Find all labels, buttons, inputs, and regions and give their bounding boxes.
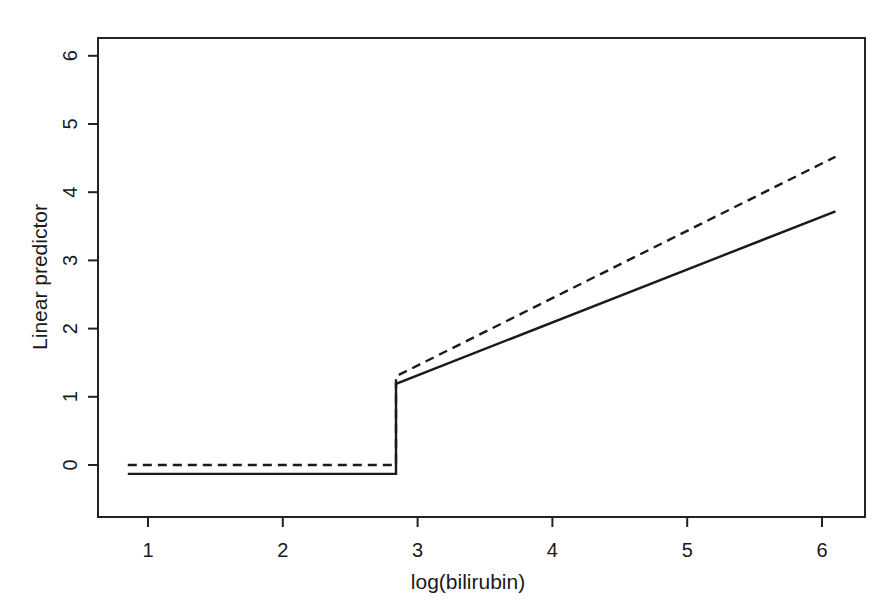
- x-tick-label: 6: [816, 539, 827, 561]
- y-axis: 0123456: [59, 50, 98, 470]
- y-axis-title: Linear predictor: [28, 204, 51, 350]
- y-tick-label: 4: [59, 187, 81, 198]
- y-tick-label: 6: [59, 50, 81, 61]
- series-dashed-line: [128, 157, 836, 465]
- plot-lines: [128, 157, 836, 474]
- x-tick-label: 4: [547, 539, 558, 561]
- x-tick-label: 1: [142, 539, 153, 561]
- x-axis: 123456: [142, 517, 827, 561]
- chart: 123456 0123456 log(bilirubin) Linear pre…: [0, 0, 894, 616]
- y-tick-label: 0: [59, 459, 81, 470]
- y-tick-label: 3: [59, 255, 81, 266]
- y-tick-label: 2: [59, 323, 81, 334]
- x-tick-label: 3: [412, 539, 423, 561]
- x-axis-title: log(bilirubin): [411, 570, 525, 593]
- y-tick-label: 5: [59, 118, 81, 129]
- x-tick-label: 5: [682, 539, 693, 561]
- plot-frame: [98, 38, 865, 517]
- series-solid-line: [128, 211, 836, 474]
- x-tick-label: 2: [277, 539, 288, 561]
- y-tick-label: 1: [59, 391, 81, 402]
